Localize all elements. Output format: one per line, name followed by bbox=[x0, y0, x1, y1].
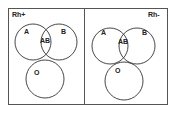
blood-type-venn-diagram: Rh+ A B AB O Rh- A B AB O bbox=[0, 0, 172, 113]
circle-b bbox=[119, 28, 155, 64]
label-b: B bbox=[142, 29, 147, 36]
label-o: O bbox=[34, 69, 40, 76]
label-b: B bbox=[61, 28, 66, 35]
panel-title: Rh- bbox=[148, 11, 160, 18]
label-ab: AB bbox=[118, 38, 128, 45]
label-o: O bbox=[115, 67, 121, 74]
outer-frame bbox=[9, 9, 168, 105]
circle-o bbox=[105, 62, 143, 100]
panel-rh-negative: Rh- A B AB O bbox=[92, 11, 160, 100]
panel-title: Rh+ bbox=[12, 11, 25, 18]
label-ab: AB bbox=[40, 37, 50, 44]
label-a: A bbox=[101, 29, 106, 36]
circle-o bbox=[26, 60, 64, 98]
label-a: A bbox=[24, 28, 29, 35]
circle-a bbox=[92, 28, 128, 64]
panel-rh-positive: Rh+ A B AB O bbox=[12, 11, 77, 98]
